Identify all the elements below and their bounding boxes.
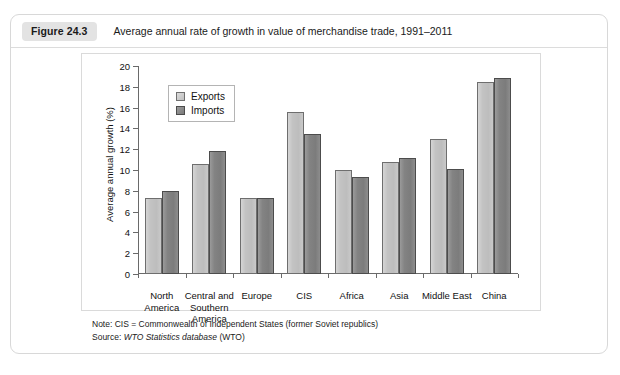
y-axis-tick-mark [133,212,138,213]
bar-imports [209,151,226,274]
footnote-source: Source: WTO Statistics database (WTO) [92,331,378,344]
bar-imports [162,191,179,274]
x-axis-category-line: China [467,290,523,302]
bar-exports [192,164,209,274]
bar-exports [335,170,352,274]
bar-exports [477,82,494,274]
bar-exports [382,162,399,274]
bar-imports [352,177,369,274]
x-axis-category-line: Southern [182,302,238,314]
y-axis-tick-mark [133,87,138,88]
bar-group [380,158,418,274]
x-axis-tick-mark [471,274,472,278]
figure-header: Figure 24.3 Average annual rate of growt… [11,15,607,48]
bar-group [285,112,323,274]
y-axis-tick-mark [133,66,138,67]
y-axis-tick-mark [133,253,138,254]
bar-group [475,78,513,274]
bar-exports [145,198,162,274]
bar-group [190,151,228,274]
y-axis-line [138,66,139,274]
bar-imports [257,198,274,274]
chart-frame: Average annual growth (%) 02468101214161… [81,53,541,311]
bar-group [428,139,466,274]
y-axis-title: Average annual growth (%) [104,80,115,250]
legend-swatch-exports-icon [176,92,185,101]
y-axis-tick-label: 4 [125,227,130,238]
y-axis-tick-mark [133,191,138,192]
footnote-source-title: WTO Statistics database [124,332,217,342]
bar-imports [399,158,416,274]
bar-imports [494,78,511,274]
y-axis-tick-label: 2 [125,248,130,259]
y-axis-tick-mark [133,232,138,233]
x-axis-category-label: China [467,290,523,302]
x-axis-tick-mark [281,274,282,278]
y-axis-tick-mark [133,128,138,129]
y-axis-tick-label: 8 [125,185,130,196]
figure-number-badge: Figure 24.3 [22,22,97,41]
y-axis-tick-label: 6 [125,206,130,217]
bar-group [143,191,181,274]
bar-imports [447,169,464,274]
x-axis-tick-mark [138,274,139,278]
x-axis-tick-mark [518,274,519,278]
y-axis-tick-label: 14 [119,123,130,134]
x-axis-tick-mark [233,274,234,278]
bar-group [333,170,371,274]
bar-exports [240,198,257,274]
chart-legend: Exports Imports [168,85,235,122]
x-axis-tick-mark [328,274,329,278]
y-axis-tick-label: 16 [119,102,130,113]
x-axis-tick-mark [376,274,377,278]
y-axis-tick-mark [133,149,138,150]
bar-exports [430,139,447,274]
figure-footnotes: Note: CIS = Commonwealth of Independent … [92,318,378,344]
bar-imports [304,134,321,274]
bar-group [238,198,276,274]
y-axis-tick-label: 10 [119,165,130,176]
figure-caption: Average annual rate of growth in value o… [114,25,453,37]
x-axis-tick-mark [423,274,424,278]
legend-label-imports: Imports [191,105,224,116]
y-axis-tick-label: 20 [119,61,130,72]
legend-item-imports: Imports [176,105,225,116]
y-axis-tick-label: 12 [119,144,130,155]
footnote-source-prefix: Source: [92,332,124,342]
y-axis-tick-mark [133,108,138,109]
footnote-source-suffix: (WTO) [217,332,245,342]
y-axis-tick-label: 18 [119,81,130,92]
x-axis-tick-mark [186,274,187,278]
figure-card: Figure 24.3 Average annual rate of growt… [10,14,608,354]
legend-label-exports: Exports [191,91,225,102]
footnote-note: Note: CIS = Commonwealth of Independent … [92,318,378,331]
bar-exports [287,112,304,274]
y-axis-tick-mark [133,170,138,171]
legend-swatch-imports-icon [176,106,185,115]
y-axis-tick-label: 0 [125,269,130,280]
legend-item-exports: Exports [176,91,225,102]
